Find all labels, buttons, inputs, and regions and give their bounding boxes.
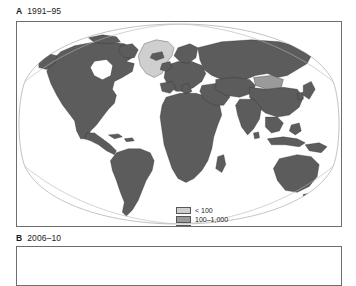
panel-a-caption: A1991–95 <box>16 7 61 16</box>
legend-swatch-low <box>176 207 191 214</box>
legend-label-mid: 100–1,000 <box>195 216 228 223</box>
panel-b-letter: B <box>16 233 22 243</box>
legend-item-mid: 100–1,000 <box>176 215 228 223</box>
region-new-zealand <box>325 182 337 202</box>
world-map-svg <box>17 22 341 226</box>
legend-swatch-mid <box>176 216 191 223</box>
legend-label-low: < 100 <box>195 207 213 214</box>
legend-item-low: < 100 <box>176 206 228 214</box>
panel-b-period: 2006–10 <box>27 233 61 243</box>
world-map-panel-b <box>16 246 342 286</box>
panel-a-letter: A <box>16 6 22 16</box>
panel-b-caption: B2006–10 <box>16 234 61 243</box>
world-map-panel-a: < 100 100–1,000 > 1,000 No data <box>16 21 342 227</box>
map-legend: < 100 100–1,000 > 1,000 No data <box>176 206 228 227</box>
panel-a-period: 1991–95 <box>27 6 61 16</box>
region-sri-lanka <box>254 132 260 139</box>
legend-label-high: > 1,000 <box>195 225 219 228</box>
legend-item-high: > 1,000 <box>176 224 228 227</box>
legend-swatch-high <box>176 225 191 228</box>
region-korea <box>297 92 303 100</box>
